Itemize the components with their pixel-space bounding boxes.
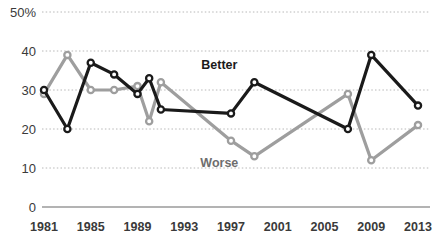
series-label-worse: Worse (200, 156, 238, 170)
data-point-better-2009 (368, 52, 374, 58)
data-point-worse-1997 (228, 138, 234, 144)
data-point-better-1985 (88, 60, 94, 66)
data-point-better-1999 (251, 79, 257, 85)
data-point-worse-1987 (111, 87, 117, 93)
y-tick-label-0: 0 (29, 200, 36, 215)
data-point-better-1987 (111, 71, 117, 77)
x-tick-label-1981: 1981 (30, 220, 58, 234)
data-point-better-1990 (146, 75, 152, 81)
x-tick-label-1985: 1985 (77, 220, 105, 234)
chart-container: 50%403020100 198119851989199319972001200… (0, 0, 444, 244)
data-point-better-1983 (64, 126, 70, 132)
x-tick-label-1997: 1997 (217, 220, 245, 234)
data-point-worse-1990 (146, 118, 152, 124)
y-tick-label-10: 10 (22, 161, 36, 176)
data-point-better-1989 (134, 91, 140, 97)
data-point-worse-2009 (368, 157, 374, 163)
data-point-worse-1991 (158, 79, 164, 85)
series-label-better: Better (201, 58, 237, 72)
y-tick-label-20: 20 (22, 122, 36, 137)
data-point-worse-1989 (134, 83, 140, 89)
data-point-worse-2013 (415, 122, 421, 128)
y-axis-labels: 50%403020100 (10, 5, 36, 215)
line-chart: 50%403020100 198119851989199319972001200… (0, 0, 444, 244)
data-point-better-1981 (41, 87, 47, 93)
data-point-better-2013 (415, 103, 421, 109)
x-tick-label-1993: 1993 (170, 220, 198, 234)
x-tick-label-2013: 2013 (404, 220, 432, 234)
data-point-worse-1999 (251, 153, 257, 159)
data-point-worse-2007 (345, 91, 351, 97)
data-point-better-1997 (228, 110, 234, 116)
data-point-better-1991 (158, 106, 164, 112)
data-point-worse-1983 (64, 52, 70, 58)
x-tick-label-1989: 1989 (124, 220, 152, 234)
x-axis-labels: 198119851989199319972001200520092013 (30, 220, 432, 234)
y-tick-label-40: 40 (22, 44, 36, 59)
y-tick-label-30: 30 (22, 83, 36, 98)
x-tick-label-2005: 2005 (311, 220, 339, 234)
x-tick-label-2009: 2009 (357, 220, 385, 234)
data-point-worse-1985 (88, 87, 94, 93)
x-tick-label-2001: 2001 (264, 220, 292, 234)
data-point-better-2007 (345, 126, 351, 132)
y-tick-label-50: 50% (10, 5, 36, 20)
